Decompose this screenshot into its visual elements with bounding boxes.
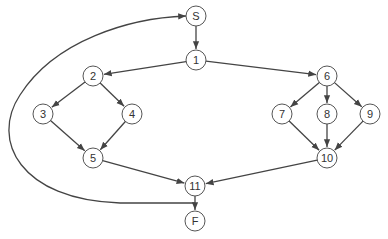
edge-7-to-10 — [289, 121, 319, 150]
node-1: 1 — [186, 50, 206, 70]
node-9: 9 — [360, 104, 380, 124]
node-4: 4 — [122, 104, 142, 124]
node-5: 5 — [83, 148, 103, 168]
node-label: 6 — [324, 70, 330, 82]
node-label: S — [192, 10, 199, 22]
control-flow-graph: S1234567891011F — [0, 0, 388, 239]
node-6: 6 — [317, 66, 337, 86]
node-label: 11 — [189, 180, 200, 192]
node-label: 7 — [279, 108, 285, 120]
edge-10-to-11 — [206, 160, 317, 184]
node-8: 8 — [317, 104, 337, 124]
node-F: F — [185, 211, 205, 231]
edge-2-to-4 — [100, 83, 124, 106]
node-label: 8 — [324, 108, 330, 120]
edge-6-to-9 — [334, 83, 361, 107]
node-label: 9 — [367, 108, 373, 120]
edge-6-to-7 — [290, 82, 319, 106]
node-11: 11 — [185, 176, 205, 196]
node-label: 10 — [321, 152, 333, 164]
node-label: 5 — [90, 152, 96, 164]
edge-4-to-5 — [100, 121, 125, 149]
edge-1-to-6 — [206, 61, 316, 74]
node-label: 3 — [40, 108, 46, 120]
edge-1-to-2 — [104, 62, 186, 75]
node-3: 3 — [33, 104, 53, 124]
node-2: 2 — [83, 66, 103, 86]
node-label: 4 — [129, 108, 135, 120]
edge-9-to-10 — [335, 121, 363, 150]
node-label: 1 — [193, 54, 199, 66]
node-label: F — [192, 215, 199, 227]
node-S: S — [186, 6, 206, 26]
edge-2-to-3 — [52, 82, 85, 107]
node-label: 2 — [90, 70, 96, 82]
node-7: 7 — [272, 104, 292, 124]
edge-5-to-11 — [103, 161, 185, 183]
node-10: 10 — [317, 148, 337, 168]
edges-layer — [51, 26, 364, 210]
edge-3-to-5 — [51, 121, 85, 151]
